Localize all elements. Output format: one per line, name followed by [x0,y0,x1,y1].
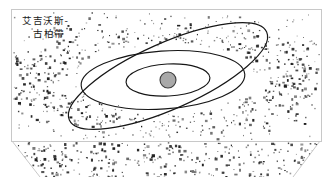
belt-object [268,109,270,111]
belt-object [266,173,268,176]
belt-object [98,152,99,153]
belt-object [50,146,52,147]
belt-object [100,167,102,169]
belt-object [202,130,203,132]
belt-object [48,106,50,107]
belt-object [42,163,44,165]
belt-object [290,106,291,107]
belt-object [122,143,123,144]
belt-object [31,157,32,159]
belt-object [233,114,234,115]
belt-object [127,145,128,146]
belt-object [55,74,57,76]
belt-object [67,68,68,69]
belt-object [222,42,223,43]
belt-object [228,164,230,166]
belt-object [62,170,63,171]
belt-object [204,160,205,161]
belt-object [259,176,262,177]
belt-object [275,105,277,106]
belt-object [239,123,241,126]
belt-object [251,139,252,140]
belt-object [218,143,219,144]
belt-object [173,172,175,174]
belt-object [199,172,200,173]
belt-object [72,129,73,130]
belt-object [144,161,145,162]
belt-object [87,56,90,59]
belt-object [227,36,228,37]
belt-object [127,33,128,35]
belt-object [316,68,319,70]
belt-object [40,160,41,161]
belt-object [53,176,55,177]
belt-object [85,135,86,136]
belt-object [281,168,283,169]
belt-object [254,157,256,159]
belt-object [297,102,298,103]
belt-object [178,116,179,117]
belt-object [216,21,217,22]
belt-object [168,114,169,115]
belt-object [311,104,312,105]
belt-object [209,158,210,159]
belt-object [256,45,259,48]
belt-object [81,50,82,51]
belt-object [146,174,149,177]
belt-object [190,27,192,29]
belt-object [96,123,98,125]
belt-object [164,37,165,38]
belt-object [254,50,255,51]
belt-object [146,157,147,159]
belt-object [48,161,49,162]
belt-object [286,75,288,77]
belt-object [161,23,163,24]
belt-object [103,36,104,37]
belt-object [278,44,279,45]
belt-object [303,37,304,38]
belt-object [111,43,114,45]
belt-object [239,99,240,100]
belt-object [288,93,289,94]
belt-object [93,174,94,175]
belt-object [101,122,102,123]
belt-object [200,112,202,114]
belt-object [160,166,162,168]
belt-object [60,174,61,176]
belt-object [302,19,303,20]
belt-object [237,33,238,34]
belt-object [176,34,177,35]
belt-object [53,73,54,74]
belt-object [279,173,280,174]
belt-object [226,120,227,121]
belt-object [49,144,50,145]
belt-object [78,159,79,160]
belt-object [221,109,222,110]
belt-object [145,132,146,133]
belt-object [53,155,56,158]
belt-object [278,38,279,40]
belt-object [53,12,54,13]
belt-object [284,63,285,64]
belt-object [261,149,263,151]
belt-object [80,62,82,64]
belt-object [250,56,252,59]
belt-object [98,24,101,26]
belt-object [44,99,45,100]
belt-object [308,15,309,16]
belt-object [289,47,290,48]
belt-object [229,159,231,161]
belt-object [74,120,76,123]
belt-object [122,172,123,173]
belt-object [101,30,103,32]
belt-object [127,28,128,29]
belt-object [280,50,281,51]
belt-object [245,127,246,128]
belt-object [263,96,266,98]
belt-object [264,69,266,70]
belt-object [65,156,67,158]
belt-object [102,120,103,121]
belt-object [16,55,17,56]
belt-object [61,135,62,136]
belt-object [140,130,141,131]
